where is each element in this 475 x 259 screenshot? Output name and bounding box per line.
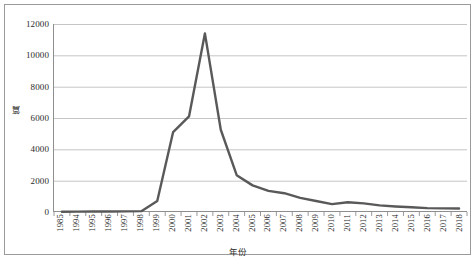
x-tick-label: 1997 bbox=[120, 214, 129, 232]
plot-area bbox=[53, 24, 467, 212]
x-tick-label: 1999 bbox=[152, 214, 161, 232]
x-tick-label: 2017 bbox=[439, 214, 448, 232]
x-tick-label: 2005 bbox=[248, 214, 257, 232]
x-tick-label: 2002 bbox=[200, 214, 209, 232]
x-tick-label: 2001 bbox=[184, 214, 193, 232]
x-tick-label: 2015 bbox=[407, 214, 416, 232]
y-axis-title: 篇 bbox=[13, 106, 21, 114]
x-tick-label: 2016 bbox=[423, 214, 432, 232]
y-axis-tick-labels: 12000 10000 8000 6000 4000 2000 0 bbox=[5, 24, 49, 212]
x-tick-label: 2000 bbox=[168, 214, 177, 232]
y-tick-label: 10000 bbox=[7, 51, 49, 60]
y-tick-label: 2000 bbox=[7, 176, 49, 185]
y-tick-label: 12000 bbox=[7, 20, 49, 29]
x-tick-label: 2004 bbox=[232, 214, 241, 232]
x-tick-label: 2011 bbox=[343, 214, 352, 232]
x-tick-label: 1996 bbox=[104, 214, 113, 232]
y-tick-label: 0 bbox=[7, 208, 49, 217]
x-axis-tick-labels: 1985199419951996199719981999200020012002… bbox=[53, 214, 467, 248]
x-tick-label: 2013 bbox=[375, 214, 384, 232]
x-axis-title: 年份 bbox=[5, 245, 470, 257]
y-tick-label: 8000 bbox=[7, 82, 49, 91]
x-tick-label: 2018 bbox=[455, 214, 464, 232]
x-tick-label: 2010 bbox=[327, 214, 336, 232]
data-series-line bbox=[62, 33, 459, 211]
x-tick-label: 2006 bbox=[263, 214, 272, 232]
x-tick-label: 2008 bbox=[295, 214, 304, 232]
x-tick-label: 1994 bbox=[72, 214, 81, 232]
x-tick-label: 1995 bbox=[88, 214, 97, 232]
gridlines bbox=[54, 25, 467, 182]
y-tick-label: 6000 bbox=[7, 114, 49, 123]
x-tick-label: 2009 bbox=[311, 214, 320, 232]
x-tick-label: 1998 bbox=[136, 214, 145, 232]
chart-screenshot: 12000 10000 8000 6000 4000 2000 0 篇 bbox=[0, 0, 475, 259]
y-tick-label: 4000 bbox=[7, 145, 49, 154]
x-tick-label: 2003 bbox=[216, 214, 225, 232]
figure-frame: 12000 10000 8000 6000 4000 2000 0 篇 bbox=[4, 4, 471, 255]
x-tick-label: 1985 bbox=[56, 214, 65, 232]
x-tick-label: 2014 bbox=[391, 214, 400, 232]
x-tick-label: 2007 bbox=[279, 214, 288, 232]
chart-canvas bbox=[54, 24, 467, 212]
x-tick-label: 2012 bbox=[359, 214, 368, 232]
